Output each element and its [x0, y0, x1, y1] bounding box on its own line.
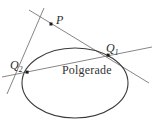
label-pole-p: P [56, 14, 63, 26]
polar-line-geometry-figure: P Q1 Q2 Polgerade [0, 0, 156, 129]
label-q1-subscript: 1 [115, 48, 119, 57]
label-q2-subscript: 2 [19, 65, 23, 74]
label-tangent-point-q1: Q1 [106, 42, 118, 57]
tangent-line-through-q2 [7, 8, 44, 94]
point-marker-q2 [26, 71, 29, 74]
label-q2-base: Q [10, 58, 19, 72]
conic-ellipse [22, 48, 128, 118]
label-q1-base: Q [106, 41, 115, 55]
label-pole-p-text: P [56, 13, 63, 27]
label-tangent-point-q2: Q2 [10, 59, 22, 74]
point-marker-p [50, 23, 53, 26]
label-polar-line: Polgerade [62, 64, 112, 76]
